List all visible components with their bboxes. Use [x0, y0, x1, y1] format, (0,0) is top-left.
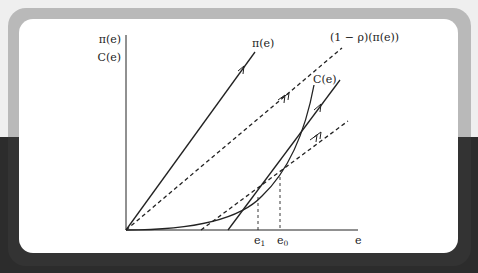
x-tick-e0: e0 — [277, 234, 289, 248]
profit-line — [126, 52, 255, 230]
y-axis-label-profit: π(e) — [99, 33, 121, 46]
profit-arrow-icon — [238, 66, 244, 74]
profit-label: π(e) — [252, 37, 274, 50]
discounted-profit-line — [126, 48, 342, 230]
x-axis-label: e — [355, 234, 362, 247]
lower-dashed-line — [201, 121, 348, 230]
y-axis-label-cost: C(e) — [97, 51, 121, 64]
x-tick-e1: e1 — [254, 234, 265, 248]
discounted-profit-label: (1 − ρ)(π(e)) — [330, 31, 399, 44]
lower-dashed-arrow-icon — [310, 132, 321, 142]
effort-cost-diagram: π(e) C(e) π(e) (1 − ρ)(π(e)) C(e) e1 e0 … — [0, 0, 478, 273]
cost-curve — [126, 85, 314, 230]
cost-label: C(e) — [313, 73, 337, 86]
